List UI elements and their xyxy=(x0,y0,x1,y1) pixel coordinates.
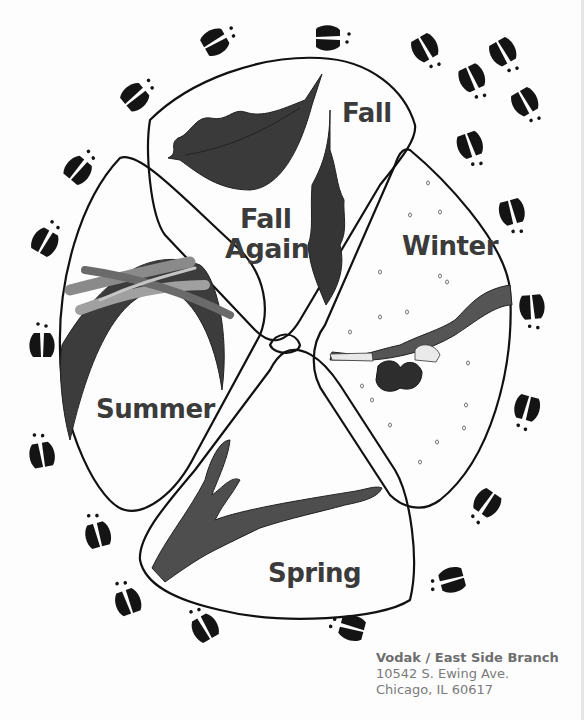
address-line-city: Chicago, IL 60617 xyxy=(376,682,559,698)
diagram-artwork xyxy=(0,0,584,720)
label-winter: Winter xyxy=(402,233,498,259)
label-fall-again-line1: Fall xyxy=(240,205,292,232)
label-spring: Spring xyxy=(268,560,361,586)
label-summer: Summer xyxy=(96,396,215,422)
label-fall-again-line2: Again xyxy=(225,235,309,262)
library-address: Vodak / East Side Branch 10542 S. Ewing … xyxy=(376,650,559,698)
label-fall: Fall xyxy=(342,100,392,126)
address-line-branch: Vodak / East Side Branch xyxy=(376,650,559,666)
address-line-street: 10542 S. Ewing Ave. xyxy=(376,666,559,682)
falling-leaf-illustration xyxy=(308,110,345,305)
seasons-diagram: Fall Fall Again Winter Summer Spring Vod… xyxy=(0,0,584,720)
oak-leaf-illustration xyxy=(168,74,322,190)
